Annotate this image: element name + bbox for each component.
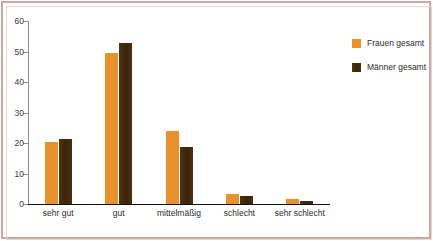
bar-group [226, 21, 253, 204]
bar [286, 199, 299, 204]
bar-group [45, 21, 72, 204]
y-tick-label: 10 [15, 169, 24, 179]
bar [59, 139, 72, 204]
bar [226, 194, 239, 204]
y-tick-label: 50 [15, 47, 24, 57]
x-axis-label: mittelmäßig [157, 208, 201, 218]
bar-group [105, 21, 132, 204]
bar [240, 196, 253, 204]
bar-group [286, 21, 313, 204]
x-axis-label: gut [113, 208, 125, 218]
y-tick-label: 20 [15, 138, 24, 148]
legend-label-frauen: Frauen gesamt [367, 38, 424, 48]
x-axis-label: schlecht [224, 208, 255, 218]
y-tick-label: 0 [19, 199, 24, 209]
x-axis-line [28, 204, 330, 205]
x-axis-label: sehr gut [43, 208, 74, 218]
bar [45, 142, 58, 204]
legend-item-frauen: Frauen gesamt [352, 38, 430, 48]
bars-layer [28, 21, 330, 204]
chart-figure: 0102030405060 sehr gutgutmittelmäßigschl… [0, 0, 433, 241]
y-tick-label: 60 [15, 16, 24, 26]
bar-group [166, 21, 193, 204]
bar [119, 43, 132, 204]
x-axis-label: sehr schlecht [275, 208, 325, 218]
chart-legend: Frauen gesamt Männer gesamt [352, 38, 430, 86]
plot-area: 0102030405060 [28, 21, 330, 204]
y-tick-label: 40 [15, 77, 24, 87]
legend-swatch-icon-frauen [352, 39, 361, 48]
bar [166, 131, 179, 204]
y-tick-label: 30 [15, 108, 24, 118]
legend-swatch-icon-maenner [352, 63, 361, 72]
bar [300, 201, 313, 204]
legend-label-maenner: Männer gesamt [367, 62, 426, 72]
legend-item-maenner: Männer gesamt [352, 62, 430, 72]
bar [105, 53, 118, 204]
bar [180, 147, 193, 204]
